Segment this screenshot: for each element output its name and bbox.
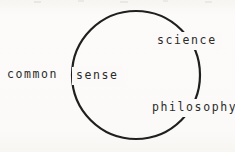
label-sense: sense xyxy=(74,69,121,83)
label-philosophy: philosophy xyxy=(150,101,235,115)
figure-root: common sense science philosophy xyxy=(0,0,235,152)
label-science: science xyxy=(155,34,219,48)
label-common: common xyxy=(7,69,58,81)
